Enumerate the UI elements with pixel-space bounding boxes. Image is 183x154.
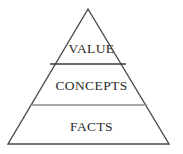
tier-label-value: VALUE	[0, 41, 183, 57]
tier-label-concepts: CONCEPTS	[0, 78, 183, 94]
pyramid-diagram: VALUE CONCEPTS FACTS	[0, 0, 183, 154]
tier-label-facts: FACTS	[0, 119, 183, 135]
